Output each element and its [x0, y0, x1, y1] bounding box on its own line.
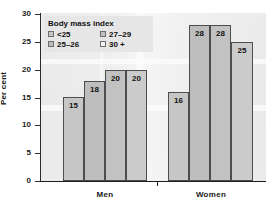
legend-item-25-26[interactable]: 25–26	[48, 40, 100, 49]
bar-men-27-29[interactable]: 20	[105, 70, 126, 181]
bar-women-lt25[interactable]: 16	[168, 92, 189, 181]
legend-item-lt25[interactable]: <25	[48, 30, 100, 39]
y-tick-30	[35, 14, 40, 15]
bar-value-women-27-29: 28	[211, 29, 230, 38]
legend-label-30plus: 30 +	[109, 40, 125, 49]
bar-men-25-26[interactable]: 18	[84, 81, 105, 181]
bar-chart: 0 5 10 15 20 25 30 Per cent 15 18 20 20 …	[0, 0, 278, 212]
bar-men-lt25[interactable]: 15	[63, 97, 84, 181]
y-tick-label-0: 0	[27, 177, 31, 185]
x-axis-group-tick	[157, 181, 158, 186]
bar-women-30plus[interactable]: 25	[231, 42, 253, 181]
bar-value-men-lt25: 15	[64, 101, 83, 110]
legend-label-27-29: 27–29	[109, 30, 131, 39]
legend-swatch-icon-25-26	[48, 41, 54, 47]
legend: Body mass index <25 27–29 25–26	[44, 16, 153, 52]
y-tick-label-5: 5	[27, 149, 31, 157]
legend-rows: <25 27–29 25–26 30 +	[48, 29, 149, 49]
bar-value-women-25-26: 28	[190, 29, 209, 38]
y-axis-line	[40, 13, 41, 182]
y-tick-label-30: 30	[22, 10, 31, 18]
y-tick-25	[35, 42, 40, 43]
legend-swatch-icon-lt25	[48, 31, 54, 37]
y-tick-label-20: 20	[22, 66, 31, 74]
bar-women-27-29[interactable]: 28	[210, 25, 231, 181]
bar-women-25-26[interactable]: 28	[189, 25, 210, 181]
y-tick-label-25: 25	[22, 38, 31, 46]
legend-row-2: 25–26 30 +	[48, 39, 149, 49]
legend-label-25-26: 25–26	[57, 40, 79, 49]
bar-men-30plus[interactable]: 20	[126, 70, 147, 181]
legend-item-30plus[interactable]: 30 +	[100, 40, 125, 49]
bar-value-women-lt25: 16	[169, 96, 188, 105]
legend-swatch-icon-27-29	[100, 31, 106, 37]
bar-value-men-30plus: 20	[127, 74, 146, 83]
bar-value-women-30plus: 25	[232, 46, 252, 55]
x-axis-label-women: Women	[180, 190, 242, 199]
legend-swatch-icon-30plus	[100, 41, 106, 47]
bar-value-men-25-26: 18	[85, 85, 104, 94]
legend-label-lt25: <25	[57, 30, 71, 39]
y-tick-5	[35, 153, 40, 154]
y-tick-15	[35, 98, 40, 99]
y-tick-0	[35, 181, 40, 182]
x-axis-label-men: Men	[75, 190, 135, 199]
legend-item-27-29[interactable]: 27–29	[100, 30, 131, 39]
legend-row-1: <25 27–29	[48, 29, 149, 39]
y-tick-20	[35, 70, 40, 71]
y-tick-label-15: 15	[22, 94, 31, 102]
bar-value-men-27-29: 20	[106, 74, 125, 83]
legend-title: Body mass index	[48, 19, 149, 28]
y-axis-title: Per cent	[0, 72, 8, 105]
x-axis-line	[40, 181, 266, 182]
y-tick-10	[35, 125, 40, 126]
y-tick-label-10: 10	[22, 121, 31, 129]
